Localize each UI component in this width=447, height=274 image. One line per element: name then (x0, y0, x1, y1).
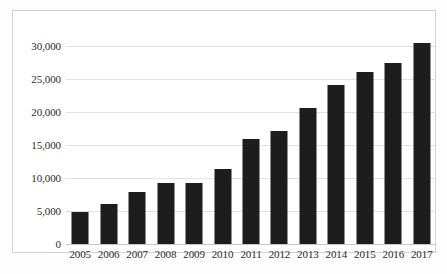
bar (186, 183, 203, 244)
x-axis-tick-label: 2014 (326, 249, 348, 260)
bar-slot: 2009 (180, 36, 208, 244)
bar-slot: 2014 (322, 36, 350, 244)
y-axis-tick-label: 15,000 (31, 139, 61, 150)
x-axis-tick-label: 2013 (297, 249, 319, 260)
bar (242, 139, 259, 244)
bar-slot: 2016 (379, 36, 407, 244)
x-axis-tick-label: 2011 (240, 249, 261, 260)
x-axis-tick-label: 2006 (98, 249, 120, 260)
bar-slot: 2007 (123, 36, 151, 244)
x-axis-tick-label: 2009 (183, 249, 205, 260)
chart-figure: 05,00010,00015,00020,00025,00030,000 200… (0, 0, 447, 274)
bar (356, 72, 373, 244)
y-axis-tick-label: 0 (56, 239, 61, 250)
bar (100, 204, 117, 244)
x-axis-tick-label: 2015 (354, 249, 376, 260)
chart-frame: 05,00010,00015,00020,00025,00030,000 200… (12, 10, 436, 253)
bar-slot: 2015 (351, 36, 379, 244)
x-axis-tick-label: 2016 (382, 249, 404, 260)
bar (328, 85, 345, 244)
bar-slot: 2017 (408, 36, 436, 244)
bar-slot: 2011 (237, 36, 265, 244)
x-axis-tick-label: 2007 (126, 249, 148, 260)
x-axis-tick-label: 2012 (269, 249, 291, 260)
bar (299, 108, 316, 244)
bar (271, 131, 288, 244)
y-axis-tick-label: 10,000 (31, 172, 61, 183)
bar-slot: 2005 (66, 36, 94, 244)
bar (413, 43, 430, 244)
x-axis-tick-label: 2005 (69, 249, 91, 260)
bar (385, 63, 402, 244)
x-axis-tick-label: 2017 (411, 249, 433, 260)
bar (72, 212, 89, 244)
bar (157, 183, 174, 244)
y-axis-tick-label: 30,000 (31, 40, 61, 51)
x-axis-tick-label: 2008 (155, 249, 177, 260)
bar (129, 192, 146, 244)
bar (214, 169, 231, 244)
bar-slot: 2008 (151, 36, 179, 244)
x-axis-tick-label: 2010 (212, 249, 234, 260)
bar-series: 2005200620072008200920102011201220132014… (66, 36, 436, 244)
bar-slot: 2010 (208, 36, 236, 244)
y-axis-tick-label: 25,000 (31, 73, 61, 84)
y-axis-tick-label: 20,000 (31, 106, 61, 117)
gridline (66, 244, 436, 245)
bar-slot: 2012 (265, 36, 293, 244)
bar-slot: 2006 (94, 36, 122, 244)
plot-area: 05,00010,00015,00020,00025,00030,000 200… (66, 36, 436, 244)
y-axis-tick-label: 5,000 (37, 205, 61, 216)
bar-slot: 2013 (294, 36, 322, 244)
